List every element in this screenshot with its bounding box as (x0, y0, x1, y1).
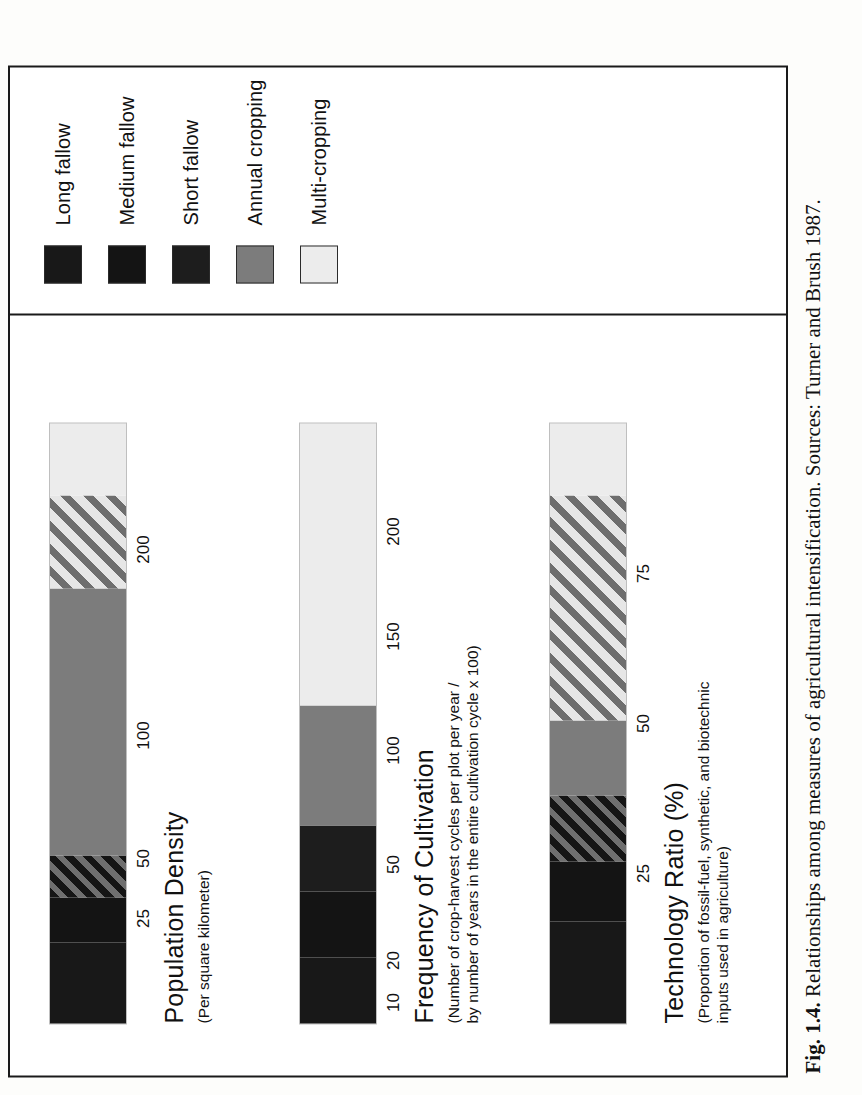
axis-tick-label: 200 (134, 535, 154, 563)
bar-segment (550, 861, 626, 921)
legend-item-label: Long fallow (52, 123, 75, 225)
axis-tick-label: 150 (384, 622, 404, 650)
legend-item-label: Multi-cropping (308, 98, 331, 225)
series-title: Technology Ratio (%) (660, 781, 689, 1023)
legend-item-label: Short fallow (180, 119, 203, 225)
legend-item-3: Annual cropping (236, 67, 274, 283)
bar-segment (300, 705, 376, 825)
legend-swatch-icon (172, 245, 210, 283)
scanned-figure-page: 2550100200Population Density(Per square … (0, 0, 862, 1095)
bar-segment (50, 588, 126, 855)
legend-item-4: Multi-cropping (300, 67, 338, 283)
legend-item-label: Annual cropping (244, 79, 267, 225)
axis-tick-label: 200 (384, 517, 404, 545)
bar-segment (300, 825, 376, 891)
legend-swatch-icon (300, 245, 338, 283)
bar-segment (550, 495, 626, 720)
bar-segment (50, 897, 126, 942)
bar-segment (550, 720, 626, 795)
bar-segment (300, 423, 376, 705)
bar-segment (300, 891, 376, 957)
bar-segment (300, 957, 376, 1023)
series-sublabel: inputs used in agriculture) (714, 846, 732, 1024)
axis-tick-label: 50 (634, 714, 654, 733)
axis-tick-label: 100 (134, 721, 154, 749)
axis-tick-labels: 255075 (634, 423, 656, 1023)
series-sublabel: (Number of crop-harvest cycles per plot … (445, 682, 463, 1023)
axis-tick-label: 50 (134, 849, 154, 868)
stacked-bar (50, 423, 126, 1023)
legend-swatch-icon (44, 245, 82, 283)
axis-tick-label: 75 (634, 564, 654, 583)
caption-label: Fig. 1.4. (801, 1002, 825, 1073)
bar-segment (50, 855, 126, 897)
axis-tick-label: 50 (384, 855, 404, 874)
bar-segment (550, 423, 626, 495)
legend-item-label: Medium fallow (116, 96, 139, 225)
series-title: Frequency of Cultivation (410, 749, 439, 1023)
bar-segment (50, 942, 126, 1023)
figure-rotator: 2550100200Population Density(Per square … (0, 0, 862, 1095)
bar-segment (50, 423, 126, 495)
series-sublabel: (Per square kilometer) (195, 870, 213, 1023)
figure-caption: Fig. 1.4. Relationships among measures o… (800, 67, 826, 1073)
legend-item-2: Short fallow (172, 67, 210, 283)
series-sublabel: by number of years in the entire cultiva… (464, 645, 482, 1023)
figure-frame: 2550100200Population Density(Per square … (8, 65, 788, 1077)
chart-area: 2550100200Population Density(Per square … (10, 315, 786, 1075)
bar-segment (550, 921, 626, 1023)
axis-tick-label: 10 (384, 993, 404, 1012)
caption-text: Relationships among measures of agricult… (801, 199, 825, 997)
stacked-bar (300, 423, 376, 1023)
bar-segment (550, 795, 626, 861)
axis-tick-label: 20 (384, 951, 404, 970)
axis-tick-labels: 102050100150200 (384, 423, 406, 1023)
legend-swatch-icon (236, 245, 274, 283)
series-sublabel: (Proportion of fossil-fuel, synthetic, a… (695, 681, 713, 1023)
legend-item-0: Long fallow (44, 67, 82, 283)
legend-swatch-icon (108, 245, 146, 283)
legend-panel: Long fallowMedium fallowShort fallowAnnu… (10, 67, 786, 315)
axis-tick-label: 25 (134, 909, 154, 928)
legend-item-1: Medium fallow (108, 67, 146, 283)
stacked-bar (550, 423, 626, 1023)
axis-tick-label: 25 (634, 864, 654, 883)
bar-segment (50, 495, 126, 588)
axis-tick-label: 100 (384, 736, 404, 764)
series-title: Population Density (160, 811, 189, 1023)
axis-tick-labels: 2550100200 (134, 423, 156, 1023)
